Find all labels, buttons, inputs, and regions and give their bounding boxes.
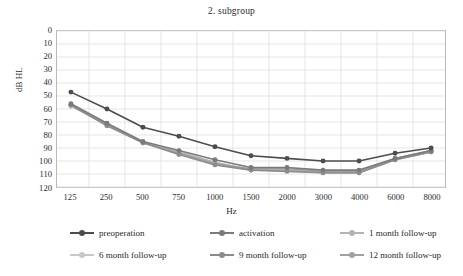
legend-label: 6 month follow-up [99,250,167,260]
legend-marker-icon [340,229,364,238]
y-tick-label: 80 [8,131,52,140]
data-point [104,121,109,126]
series-activation [68,101,433,172]
legend-item[interactable]: activation [210,228,275,238]
legend-marker-icon [70,251,94,260]
data-point [321,159,326,164]
chart-figure: 2. subgroup dB HL 0102030405060708090100… [0,0,463,276]
y-tick-label: 70 [8,118,52,127]
legend-label: preoperation [99,228,144,238]
y-tick-label: 10 [8,39,52,48]
series-lines [57,31,445,187]
y-tick-label: 60 [8,105,52,114]
data-point [212,157,217,162]
data-point [249,153,254,158]
x-tick-label: 3000 [315,192,332,202]
legend-label: 1 month follow-up [369,228,437,238]
y-tick-label: 20 [8,52,52,61]
x-tick-label: 1000 [206,192,223,202]
y-tick-label: 30 [8,65,52,74]
data-point [393,151,398,156]
y-tick-label: 50 [8,91,52,100]
data-point [140,125,145,130]
legend-label: 12 month follow-up [369,250,441,260]
y-tick-label: 40 [8,78,52,87]
y-axis-tick-labels: 0102030405060708090100110120 [4,30,52,188]
data-point [176,134,181,139]
data-point [212,162,217,167]
y-tick-label: 120 [8,184,52,193]
data-point [393,156,398,161]
data-point [104,107,109,112]
data-point [357,159,362,164]
plot-area [56,30,446,188]
legend-label: activation [239,228,275,238]
legend-item[interactable]: preoperation [70,228,144,238]
data-point [321,168,326,173]
x-axis-tick-labels: 1252505007501000150020003000400060008000 [56,192,446,206]
x-tick-label: 6000 [387,192,404,202]
y-tick-label: 0 [8,26,52,35]
legend-marker-icon [210,251,234,260]
data-point [429,146,434,151]
legend-item[interactable]: 12 month follow-up [340,250,441,260]
data-point [140,139,145,144]
data-point [249,165,254,170]
data-point [68,90,73,95]
x-tick-label: 4000 [351,192,368,202]
x-tick-label: 250 [100,192,113,202]
legend-marker-icon [340,251,364,260]
legend-item[interactable]: 6 month follow-up [70,250,167,260]
x-tick-label: 125 [64,192,77,202]
data-point [212,144,217,149]
y-tick-label: 90 [8,144,52,153]
legend-marker-icon [70,229,94,238]
x-tick-label: 2000 [279,192,296,202]
y-tick-label: 100 [8,157,52,166]
x-tick-label: 8000 [423,192,440,202]
legend-item[interactable]: 1 month follow-up [340,228,437,238]
data-point [285,156,290,161]
x-tick-label: 750 [172,192,185,202]
x-tick-label: 500 [136,192,149,202]
x-axis-title: Hz [0,206,463,216]
data-point [285,165,290,170]
data-point [68,101,73,106]
data-point [357,168,362,173]
y-tick-label: 110 [8,170,52,179]
chart-legend: preoperationactivation1 month follow-up6… [40,228,440,272]
legend-marker-icon [210,229,234,238]
data-point [176,148,181,153]
x-tick-label: 1500 [242,192,259,202]
series-preoperation [68,90,433,164]
legend-item[interactable]: 9 month follow-up [210,250,307,260]
legend-label: 9 month follow-up [239,250,307,260]
chart-title: 2. subgroup [0,6,463,16]
